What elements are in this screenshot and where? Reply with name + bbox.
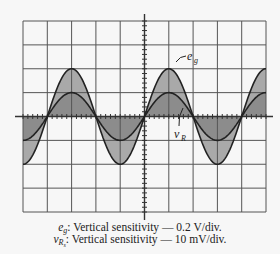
eg-label-sub: g — [194, 56, 198, 65]
eg-label: e — [187, 49, 193, 63]
trace-label-eg: e g — [176, 49, 198, 65]
vr-label: v — [174, 127, 180, 141]
oscilloscope-screen: e g v R — [0, 0, 280, 254]
vr-label-sub: R — [180, 134, 186, 143]
caption-vr-sensitivity: vRs: Vertical sensitivity — 10 mV/div. — [0, 233, 280, 251]
